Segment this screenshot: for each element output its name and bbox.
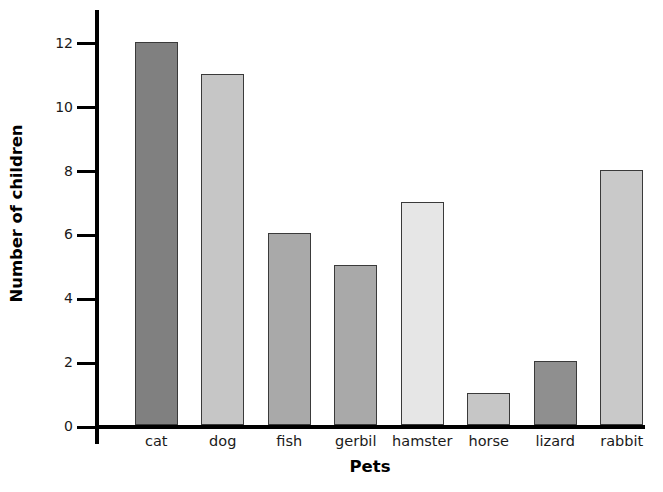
y-tick-label: 12 xyxy=(27,36,73,50)
y-tick-mark xyxy=(77,426,95,429)
y-tick-label-text: 10 xyxy=(27,100,73,114)
x-tick-label-fish: fish xyxy=(256,434,323,449)
bar-rabbit xyxy=(600,170,643,425)
x-tick-label-gerbil: gerbil xyxy=(323,434,390,449)
y-tick-label: 6 xyxy=(27,227,73,241)
x-tick-label-lizard: lizard xyxy=(522,434,589,449)
x-tick-label-hamster: hamster xyxy=(389,434,456,449)
y-tick-label: 0 xyxy=(27,419,73,433)
y-tick-label-text: 12 xyxy=(27,36,73,50)
bar-horse xyxy=(467,393,510,425)
y-tick-label-text: 6 xyxy=(27,227,73,241)
y-tick-label: 2 xyxy=(27,355,73,369)
y-tick-label-text: 8 xyxy=(27,164,73,178)
y-tick-mark xyxy=(77,170,95,173)
bar-gerbil xyxy=(334,265,377,425)
y-tick-mark xyxy=(77,362,95,365)
x-tick-label-horse: horse xyxy=(456,434,523,449)
y-tick-label: 10 xyxy=(27,100,73,114)
bar-fish xyxy=(268,233,311,425)
bar-chart: Number of children 024681012 catdogfishg… xyxy=(0,0,663,492)
x-axis-title: Pets xyxy=(95,457,645,476)
bar-dog xyxy=(201,74,244,425)
x-axis-line xyxy=(95,425,645,429)
x-tick-label-cat: cat xyxy=(123,434,190,449)
y-axis-title-text: Number of children xyxy=(8,125,27,303)
bar-cat xyxy=(135,42,178,425)
y-tick-mark xyxy=(77,298,95,301)
y-tick-label-text: 4 xyxy=(27,291,73,305)
y-tick-label: 4 xyxy=(27,291,73,305)
x-tick-label-dog: dog xyxy=(190,434,257,449)
y-tick-label-text: 0 xyxy=(27,419,73,433)
y-tick-label: 8 xyxy=(27,164,73,178)
bar-lizard xyxy=(534,361,577,425)
plot-area: 024681012 catdogfishgerbilhamsterhorseli… xyxy=(95,10,645,427)
y-axis-line xyxy=(95,10,99,444)
bar-hamster xyxy=(401,202,444,425)
y-tick-label-text: 2 xyxy=(27,355,73,369)
y-tick-mark xyxy=(77,42,95,45)
y-tick-mark xyxy=(77,234,95,237)
y-tick-mark xyxy=(77,106,95,109)
x-tick-label-rabbit: rabbit xyxy=(589,434,656,449)
